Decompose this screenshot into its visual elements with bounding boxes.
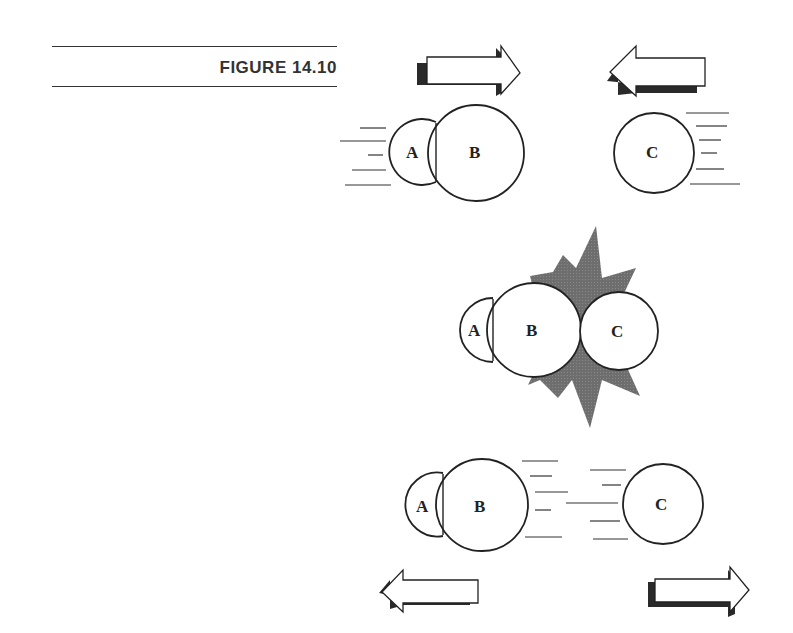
svg-text:C: C [646, 143, 658, 162]
panel-before: A B C [340, 46, 740, 201]
motion-lines-ab [340, 128, 391, 185]
arrow-right-icon [417, 46, 520, 96]
ball-c: C [623, 464, 703, 544]
arrow-left-icon [379, 570, 478, 612]
svg-text:A: A [406, 143, 419, 162]
ball-c: C [614, 113, 694, 193]
svg-text:C: C [611, 322, 623, 341]
ball-b: B [436, 459, 528, 551]
ball-b: B [428, 105, 524, 201]
svg-text:A: A [468, 321, 481, 340]
svg-text:A: A [416, 497, 429, 516]
svg-text:B: B [474, 497, 485, 516]
panel-after: A B C [379, 459, 749, 617]
svg-text:B: B [469, 143, 480, 162]
arrow-right-icon [648, 567, 749, 617]
ball-c: C [580, 292, 658, 370]
arrow-left-icon [607, 46, 705, 96]
collision-diagram: A B C A B [0, 0, 793, 633]
svg-text:B: B [526, 321, 537, 340]
motion-lines-c [566, 470, 628, 539]
ball-b: B [487, 283, 581, 377]
panel-collision: A B C [460, 226, 658, 428]
motion-lines-ab [522, 461, 568, 537]
svg-text:C: C [655, 495, 667, 514]
